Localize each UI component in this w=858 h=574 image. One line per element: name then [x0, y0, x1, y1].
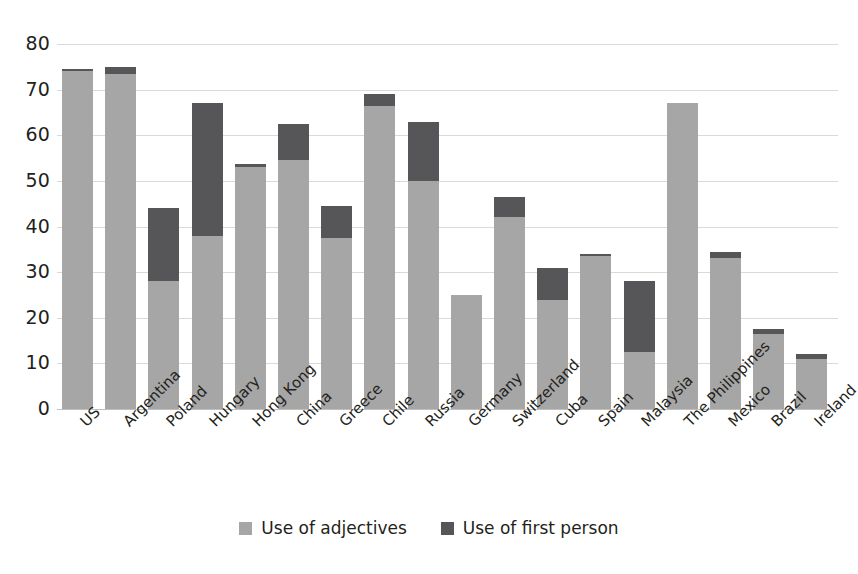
bar-segment-first-person[interactable] — [753, 329, 784, 334]
legend-item[interactable]: Use of adjectives — [239, 520, 406, 537]
bar-segment-first-person[interactable] — [796, 354, 827, 359]
bar-group[interactable] — [62, 69, 93, 409]
y-axis: 80706050403020100 — [0, 44, 50, 409]
bar-segment-adjectives[interactable] — [321, 238, 352, 409]
bar-segment-first-person[interactable] — [494, 197, 525, 218]
y-tick-label: 70 — [4, 80, 50, 99]
bar-segment-first-person[interactable] — [710, 252, 741, 259]
bar-segment-adjectives[interactable] — [408, 181, 439, 409]
x-tick-label: US — [78, 404, 103, 429]
legend-label: Use of adjectives — [261, 520, 406, 537]
bar-segment-first-person[interactable] — [321, 206, 352, 238]
bar-segment-first-person[interactable] — [105, 67, 136, 74]
x-axis: USArgentinaPolandHungaryHong KongChinaGr… — [57, 409, 838, 519]
bar-group[interactable] — [667, 103, 698, 409]
y-tick-label: 10 — [4, 353, 50, 372]
bar-segment-first-person[interactable] — [624, 281, 655, 352]
bar-segment-first-person[interactable] — [364, 94, 395, 105]
legend: Use of adjectivesUse of first person — [0, 520, 858, 537]
stacked-bar-chart: 80706050403020100 USArgentinaPolandHunga… — [0, 0, 858, 574]
legend-label: Use of first person — [463, 520, 619, 537]
y-tick-label: 50 — [4, 171, 50, 190]
y-tick-label: 40 — [4, 217, 50, 236]
bar-segment-first-person[interactable] — [537, 268, 568, 300]
bar-group[interactable] — [364, 94, 395, 409]
bar-segment-first-person[interactable] — [278, 124, 309, 161]
legend-item[interactable]: Use of first person — [441, 520, 619, 537]
gridline — [57, 90, 838, 91]
y-tick-label: 80 — [4, 34, 50, 53]
bar-group[interactable] — [321, 206, 352, 409]
bar-segment-first-person[interactable] — [235, 164, 266, 167]
bar-group[interactable] — [408, 122, 439, 409]
bar-group[interactable] — [192, 103, 223, 409]
y-tick-label: 0 — [4, 399, 50, 418]
gridline — [57, 135, 838, 136]
gridline — [57, 44, 838, 45]
bar-segment-first-person[interactable] — [62, 69, 93, 71]
y-tick-label: 20 — [4, 308, 50, 327]
plot-area — [57, 44, 838, 409]
bar-segment-adjectives[interactable] — [105, 74, 136, 409]
bar-group[interactable] — [580, 254, 611, 409]
legend-swatch-icon — [239, 522, 252, 535]
bar-segment-adjectives[interactable] — [667, 103, 698, 409]
y-tick-label: 60 — [4, 125, 50, 144]
bar-segment-first-person[interactable] — [408, 122, 439, 181]
bar-segment-first-person[interactable] — [580, 254, 611, 256]
y-tick-label: 30 — [4, 262, 50, 281]
bar-segment-adjectives[interactable] — [62, 71, 93, 409]
bar-segment-adjectives[interactable] — [364, 106, 395, 409]
bar-segment-first-person[interactable] — [148, 208, 179, 281]
gridline — [57, 181, 838, 182]
bar-group[interactable] — [624, 281, 655, 409]
bar-group[interactable] — [105, 67, 136, 409]
legend-swatch-icon — [441, 522, 454, 535]
bar-segment-first-person[interactable] — [192, 103, 223, 235]
bar-segment-adjectives[interactable] — [580, 256, 611, 409]
